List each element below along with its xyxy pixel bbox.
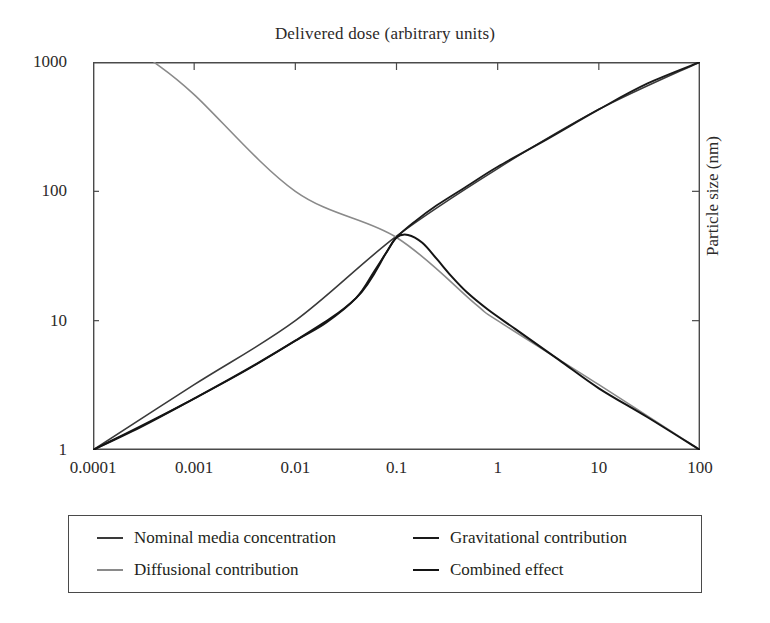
plot-area: [93, 62, 700, 450]
legend-line-swatch: [413, 537, 439, 539]
series-line-diffusional-contribution: [154, 62, 700, 450]
legend-item[interactable]: Gravitational contribution: [385, 528, 701, 548]
y-tick-label: 1: [59, 440, 68, 460]
y-tick-label: 100: [42, 181, 68, 201]
x-tick-label: 1: [493, 458, 502, 478]
legend-item[interactable]: Diffusional contribution: [69, 560, 385, 580]
legend: Nominal media concentrationGravitational…: [68, 515, 702, 593]
series-line-combined-effect: [93, 235, 700, 450]
x-tick-label: 0.01: [280, 458, 310, 478]
x-tick-label: 100: [687, 458, 713, 478]
chart-title: Delivered dose (arbitrary units): [0, 24, 770, 44]
y-tick-label: 1000: [33, 52, 67, 72]
legend-item-label: Combined effect: [450, 560, 563, 580]
legend-item-label: Diffusional contribution: [134, 560, 298, 580]
legend-line-swatch: [97, 537, 123, 539]
legend-line-swatch: [97, 569, 123, 571]
legend-item[interactable]: Combined effect: [385, 560, 701, 580]
plot-canvas: [93, 62, 700, 450]
chart-figure: Delivered dose (arbitrary units) 1101001…: [0, 0, 770, 623]
legend-line-swatch: [413, 569, 439, 571]
legend-item-label: Nominal media concentration: [134, 528, 336, 548]
x-tick-label: 10: [590, 458, 607, 478]
y2-axis-title: Particle size (nm): [703, 136, 723, 256]
x-tick-label: 0.1: [386, 458, 407, 478]
x-tick-label: 0.001: [175, 458, 213, 478]
x-tick-label: 0.0001: [70, 458, 117, 478]
legend-item[interactable]: Nominal media concentration: [69, 528, 385, 548]
legend-item-label: Gravitational contribution: [450, 528, 627, 548]
y-tick-label: 10: [50, 311, 67, 331]
